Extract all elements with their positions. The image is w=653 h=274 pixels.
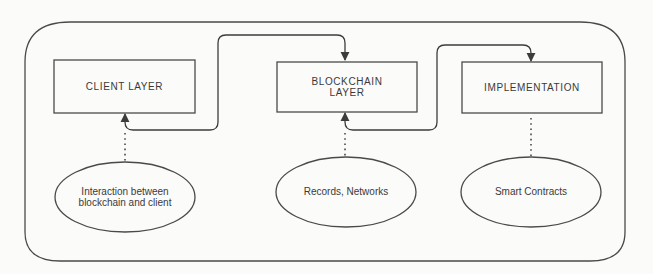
implementation-description-ellipse (461, 157, 601, 227)
blockchain-layer-box (277, 62, 417, 112)
architecture-diagram: CLIENT LAYER BLOCKCHAIN LAYER IMPLEMENTA… (0, 0, 653, 274)
client-description-ellipse (55, 162, 195, 232)
connector-client-to-blockchain (125, 35, 345, 130)
connector-blockchain-to-implementation (345, 45, 531, 130)
client-layer-box (54, 60, 195, 113)
diagram-shapes (0, 0, 653, 274)
blockchain-description-ellipse (276, 157, 416, 227)
implementation-box (462, 62, 602, 113)
